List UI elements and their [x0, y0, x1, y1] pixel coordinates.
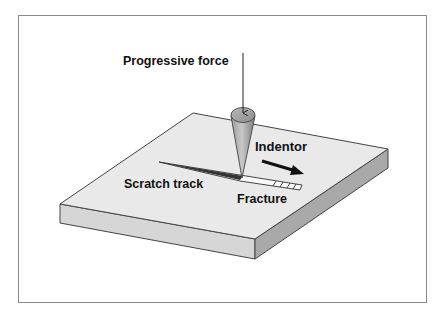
- progressive-force-label: Progressive force: [123, 55, 229, 68]
- scratch-track-label: Scratch track: [124, 178, 203, 191]
- indentor-label: Indentor: [255, 140, 307, 153]
- scratch-test-diagram: [0, 0, 445, 323]
- slab: [60, 113, 388, 259]
- fracture-label: Fracture: [237, 193, 287, 206]
